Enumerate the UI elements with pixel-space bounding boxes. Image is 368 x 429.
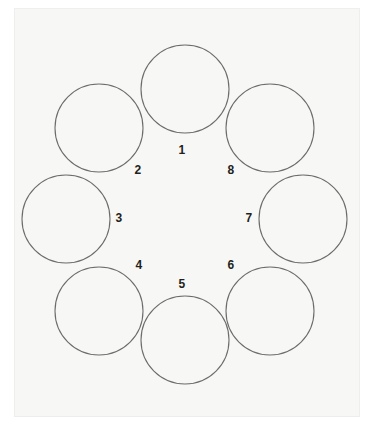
circle-node-3[interactable]	[22, 175, 110, 263]
circle-ring-diagram	[0, 0, 368, 429]
circle-label-6: 6	[228, 259, 235, 271]
circle-node-2[interactable]	[55, 84, 143, 172]
figure-root: 12345678	[0, 0, 368, 429]
circle-node-1[interactable]	[141, 45, 229, 133]
circle-node-7[interactable]	[259, 175, 347, 263]
circle-node-4[interactable]	[55, 267, 143, 355]
circle-node-6[interactable]	[226, 267, 314, 355]
circle-node-8[interactable]	[226, 84, 314, 172]
circle-label-3: 3	[116, 212, 123, 224]
circle-label-1: 1	[179, 144, 186, 156]
circle-label-8: 8	[228, 164, 235, 176]
circle-label-2: 2	[135, 164, 142, 176]
circle-label-7: 7	[246, 212, 253, 224]
circle-group	[22, 45, 347, 384]
circle-label-4: 4	[136, 259, 143, 271]
circle-node-5[interactable]	[141, 296, 229, 384]
circle-label-5: 5	[179, 278, 186, 290]
